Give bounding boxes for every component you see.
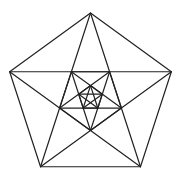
pentagram-figure xyxy=(10,13,172,167)
nested-pentagram-diagram xyxy=(0,0,180,183)
